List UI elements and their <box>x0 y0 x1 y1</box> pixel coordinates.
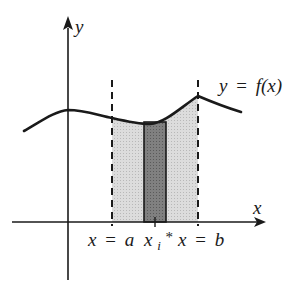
curve-label-eq: = <box>236 75 247 96</box>
bound-b-var: x <box>177 229 187 250</box>
bound-a-var: x <box>87 229 97 250</box>
bound-a-val: a <box>125 229 135 250</box>
riemann-diagram: y x y = f(x) x = a x i * x = b <box>0 0 294 293</box>
bound-b-label: x = b <box>177 229 224 250</box>
bound-a-eq: = <box>105 229 116 250</box>
bound-b-eq: = <box>195 229 206 250</box>
curve-label-y: y <box>217 75 228 96</box>
bound-b-val: b <box>215 229 225 250</box>
curve-label: y = f(x) <box>217 75 282 97</box>
x-axis-label: x <box>252 197 262 218</box>
y-axis-arrow-icon <box>63 16 73 30</box>
bound-a-label: x = a <box>87 229 134 250</box>
sample-point-base: x <box>143 229 153 250</box>
sample-strip <box>144 122 166 222</box>
y-axis-label: y <box>73 16 84 37</box>
sample-point-superscript: * <box>166 229 174 245</box>
sample-point-subscript: i <box>157 238 161 253</box>
sample-point-label: x i * <box>143 229 173 254</box>
curve-label-f: f(x) <box>256 75 282 97</box>
